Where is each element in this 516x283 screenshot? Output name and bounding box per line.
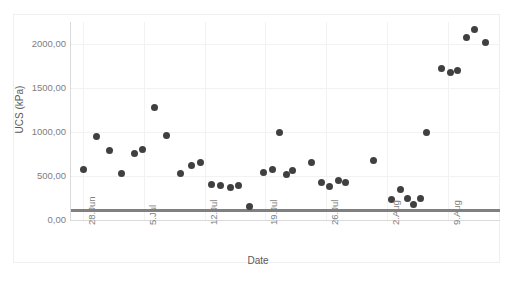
data-point xyxy=(188,162,195,169)
data-point xyxy=(106,147,113,154)
data-point xyxy=(208,181,215,188)
gridline-vertical xyxy=(448,22,449,220)
scatter-chart: 0,00500,001000,001500,002000,00 UCS (kPa… xyxy=(0,0,516,283)
y-axis-tick-label: 2000,00 xyxy=(32,39,66,49)
data-point xyxy=(163,132,170,139)
data-point xyxy=(423,129,430,136)
gridline-vertical xyxy=(144,22,145,220)
gridline-vertical xyxy=(326,22,327,220)
data-point xyxy=(227,184,234,191)
y-axis-tick-label: 500,00 xyxy=(37,171,66,181)
data-point xyxy=(151,104,158,111)
data-point xyxy=(80,166,87,173)
gridline-vertical xyxy=(387,22,388,220)
gridline-vertical xyxy=(265,22,266,220)
data-point xyxy=(308,159,315,166)
x-axis-tick-label: 2.Aug xyxy=(391,200,401,225)
plot-area xyxy=(70,22,500,220)
data-point xyxy=(235,182,242,189)
x-axis-tick-label: 26.Jul xyxy=(330,200,340,225)
data-point xyxy=(447,69,454,76)
data-point xyxy=(217,182,224,189)
y-axis-tick-label: 1000,00 xyxy=(32,127,66,137)
data-point xyxy=(289,167,296,174)
y-axis-title: UCS (kPa) xyxy=(14,86,25,134)
gridline-vertical xyxy=(83,22,84,220)
data-point xyxy=(438,65,445,72)
data-point xyxy=(397,186,404,193)
y-axis-tick-label: 1500,00 xyxy=(32,83,66,93)
x-axis-line xyxy=(70,220,500,221)
data-point xyxy=(118,170,125,177)
x-axis-tick-label: 9.Aug xyxy=(452,200,462,225)
gridline-horizontal xyxy=(70,88,500,89)
data-point xyxy=(471,26,478,33)
x-axis-tick-label: 28.Jun xyxy=(87,196,97,225)
gridline-vertical xyxy=(205,22,206,220)
data-point xyxy=(318,179,325,186)
data-point xyxy=(177,170,184,177)
data-point xyxy=(276,129,283,136)
data-point xyxy=(454,67,461,74)
data-point xyxy=(370,157,377,164)
y-axis-tick-label: 0,00 xyxy=(48,215,67,225)
gridline-horizontal xyxy=(70,132,500,133)
y-axis-line xyxy=(70,22,71,220)
data-point xyxy=(335,177,342,184)
data-point xyxy=(197,159,204,166)
data-point xyxy=(417,195,424,202)
data-point xyxy=(342,179,349,186)
data-point xyxy=(482,39,489,46)
x-axis-tick-label: 5.Jul xyxy=(148,205,158,225)
data-point xyxy=(93,133,100,140)
y-axis-tick-labels: 0,00500,001000,001500,002000,00 xyxy=(12,0,66,283)
data-point xyxy=(131,150,138,157)
data-point xyxy=(463,34,470,41)
data-point xyxy=(139,146,146,153)
data-point xyxy=(410,201,417,208)
gridline-horizontal xyxy=(70,44,500,45)
x-axis-title: Date xyxy=(0,255,516,266)
x-axis-tick-label: 12.Jul xyxy=(209,200,219,225)
data-point xyxy=(326,183,333,190)
x-axis-tick-label: 19.Jul xyxy=(269,200,279,225)
threshold-line xyxy=(70,209,500,212)
data-point xyxy=(269,166,276,173)
